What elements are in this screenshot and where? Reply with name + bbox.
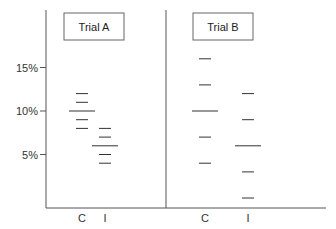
y-tick-label: 10% — [16, 105, 38, 117]
panel-title: Trial A — [79, 21, 110, 33]
y-tick-label: 15% — [16, 62, 38, 74]
panel-title: Trial B — [207, 21, 238, 33]
category-label: C — [78, 212, 86, 224]
category-label: C — [201, 212, 209, 224]
category-label: I — [103, 212, 106, 224]
y-tick-label: 5% — [22, 149, 38, 161]
category-label: I — [246, 212, 249, 224]
chart: 5%10%15%Trial ACITrial BCI — [0, 0, 336, 229]
